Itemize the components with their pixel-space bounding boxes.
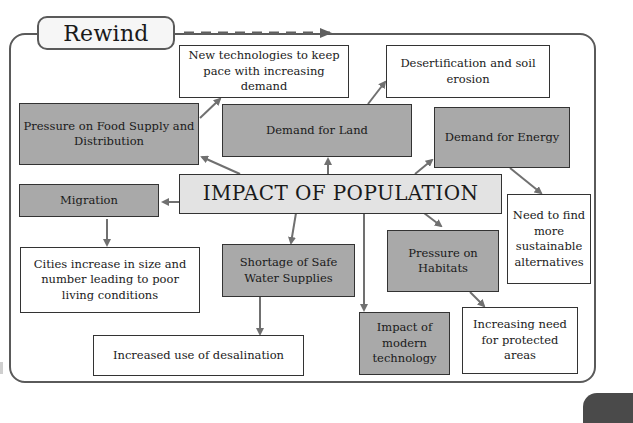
page-edge-marker [0,362,3,374]
impact-demand-for-land: Demand for Land [222,104,412,157]
impact-migration: Migration [19,184,159,217]
consequence-cities: Cities increase in size and number leadi… [20,247,200,313]
impact-text: Demand for Land [266,123,368,139]
impact-text: Pressure on Habitats [402,246,484,277]
impact-text: Migration [60,193,118,209]
consequence-desertification: Desertification and soil erosion [386,45,550,98]
impact-habitats: Pressure on Habitats [387,230,499,292]
impact-demand-for-energy: Demand for Energy [434,107,570,168]
impact-modern-technology: Impact of modern technology [359,312,450,375]
impact-text: Pressure on Food Supply and Distribution [23,119,195,150]
consequence-text: New technologies to keep pace with incre… [183,48,345,95]
consequence-text: Desertification and soil erosion [390,56,546,87]
consequence-text: Increased use of desalination [113,348,284,364]
impact-text: Impact of modern technology [363,320,446,367]
consequence-sustainable-alternatives: Need to find more sustainable alternativ… [507,194,591,284]
consequence-text: Cities increase in size and number leadi… [26,257,194,304]
consequence-text: Need to find more sustainable alternativ… [509,208,589,270]
center-impact-of-population: IMPACT OF POPULATION [179,174,502,214]
consequence-text: Increasing need for protected areas [471,317,569,364]
consequence-new-technologies: New technologies to keep pace with incre… [179,45,349,98]
impact-food-supply: Pressure on Food Supply and Distribution [19,103,199,165]
consequence-desalination: Increased use of desalination [93,335,304,376]
consequence-protected-areas: Increasing need for protected areas [462,307,578,374]
impact-text: Demand for Energy [445,130,560,146]
center-title: IMPACT OF POPULATION [203,186,479,202]
next-page-tab[interactable] [583,393,633,423]
impact-text: Shortage of Safe Water Supplies [226,255,351,286]
impact-water-shortage: Shortage of Safe Water Supplies [222,244,355,297]
